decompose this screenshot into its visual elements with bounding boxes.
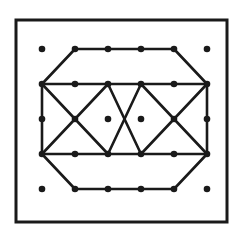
grid-dot [39,81,46,88]
grid-dot [138,186,145,193]
grid-dot [105,46,112,53]
geoboard-diagram [0,0,246,234]
grid-dot [171,151,178,158]
grid-dot [204,46,211,53]
grid-dot [171,46,178,53]
grid-dot [72,151,79,158]
grid-dot [105,186,112,193]
grid-dot [105,81,112,88]
grid-dot [39,46,46,53]
grid-dot [138,151,145,158]
grid-dot [39,116,46,123]
grid-dot [39,186,46,193]
grid-dot [39,151,46,158]
line-segments [42,49,207,189]
grid-dot [72,81,79,88]
grid-dot [171,81,178,88]
grid-dot [72,186,79,193]
grid-dot [171,116,178,123]
line-segment [174,49,207,84]
line-segment [174,154,207,189]
grid-dot [72,46,79,53]
grid-dot [204,186,211,193]
grid-dot [204,81,211,88]
grid-dot [138,81,145,88]
grid-dot [72,116,79,123]
grid-dot [204,151,211,158]
line-segment [42,49,75,84]
grid-dot [105,151,112,158]
grid-dot [204,116,211,123]
grid-dot [171,186,178,193]
grid-dot [138,116,145,123]
grid-dot [105,116,112,123]
line-segment [42,154,75,189]
grid-dot [138,46,145,53]
